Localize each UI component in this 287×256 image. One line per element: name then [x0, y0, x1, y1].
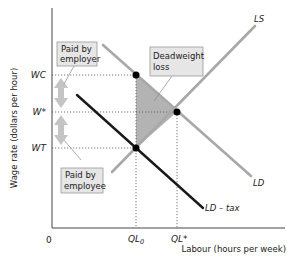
tick-qlstar: QL*: [171, 234, 188, 244]
point-qlstar-wstar: [174, 109, 181, 116]
tick-ql0: QL0: [128, 234, 144, 246]
employer-share-arrow-icon: [54, 78, 68, 108]
paid-by-employee-callout: Paid by employee: [61, 168, 106, 193]
employee-line1: Paid by: [65, 170, 96, 180]
ls-label: LS: [254, 14, 265, 24]
employer-line2: employer: [60, 54, 101, 64]
point-ql0-wt: [133, 145, 140, 152]
dwl-line2: loss: [153, 62, 170, 72]
tick-wstar: W*: [33, 107, 47, 117]
tick-wt: WT: [32, 143, 48, 153]
dwl-line1: Deadweight: [153, 51, 205, 61]
origin-label: 0: [46, 235, 52, 245]
employee-line2: employee: [64, 181, 106, 191]
tax-incidence-chart: Paid by employer Paid by employee Deadwe…: [0, 0, 287, 256]
ld-tax-label: LD – tax: [205, 203, 240, 213]
x-axis-title: Labour (hours per week): [181, 244, 286, 254]
deadweight-loss-callout: Deadweight loss: [150, 47, 205, 76]
ld-label: LD: [253, 178, 265, 188]
tick-wc: WC: [31, 70, 47, 80]
employee-share-arrow-icon: [54, 115, 68, 145]
paid-by-employer-callout: Paid by employer: [57, 42, 101, 66]
point-ql0-wc: [133, 72, 140, 79]
y-axis-title: Wage rate (dollars per hour): [9, 68, 19, 188]
employer-line1: Paid by: [61, 44, 92, 54]
